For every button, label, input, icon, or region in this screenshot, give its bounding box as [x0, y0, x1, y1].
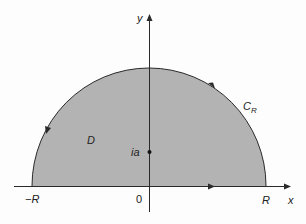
region-label: D: [87, 134, 95, 146]
contour-diagram: y x 0 −R R D ia CR: [0, 0, 306, 224]
y-axis-label: y: [136, 12, 144, 24]
origin-label: 0: [136, 193, 142, 205]
diagram-svg: y x 0 −R R D ia CR: [0, 0, 306, 224]
contour-label-subscript: R: [251, 106, 257, 115]
contour-label: CR: [243, 100, 257, 115]
point-ia-label: ia: [131, 146, 140, 158]
right-endpoint-label: R: [262, 194, 270, 206]
x-axis-label: x: [287, 194, 294, 206]
left-endpoint-label: −R: [25, 193, 39, 205]
contour-label-main: C: [243, 100, 251, 112]
point-ia-dot: [148, 150, 152, 154]
